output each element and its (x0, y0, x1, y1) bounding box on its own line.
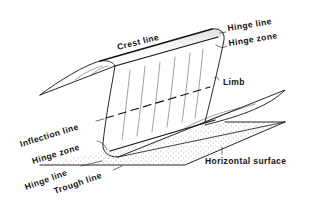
svg-text:Hinge zone: Hinge zone (228, 30, 278, 48)
svg-text:Hinge line: Hinge line (227, 16, 273, 33)
left-flap (40, 61, 115, 95)
svg-text:Horizontal surface: Horizontal surface (205, 156, 286, 166)
fold-diagram: Crest line Hinge line Hinge zone Limb In… (0, 0, 329, 203)
svg-text:Limb: Limb (223, 77, 245, 87)
label-hinge-line-top: Hinge line (220, 16, 272, 33)
label-inflection-line: Inflection line (19, 119, 104, 149)
label-hinge-zone-top: Hinge zone (216, 30, 278, 48)
label-limb: Limb (214, 77, 245, 87)
